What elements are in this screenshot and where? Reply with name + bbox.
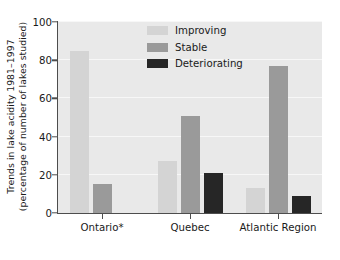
legend-swatch-improving-icon <box>147 26 168 35</box>
legend-item-deteriorating: Deteriorating <box>147 58 243 69</box>
y-axis-tick-label: 80 <box>39 55 52 66</box>
gridline <box>58 21 322 22</box>
x-axis-category-label: Quebec <box>170 222 209 233</box>
y-axis-tick-label: 100 <box>33 17 52 28</box>
y-axis-tick-label: 40 <box>39 131 52 142</box>
y-axis-line <box>57 21 58 214</box>
legend-item-stable: Stable <box>147 42 243 53</box>
y-axis-tick-mark <box>52 212 57 213</box>
y-axis-tick-label: 20 <box>39 169 52 180</box>
bar-quebec-stable <box>181 116 200 213</box>
bar-chart-figure: Trends in lake acidity 1981–1997 (percen… <box>0 0 340 260</box>
legend-swatch-stable-icon <box>147 43 168 52</box>
y-axis-tick-mark <box>52 21 57 22</box>
legend-label: Improving <box>175 25 226 36</box>
y-axis-tick-mark <box>52 174 57 175</box>
x-axis-category-label: Atlantic Region <box>240 222 317 233</box>
y-axis-label: Trends in lake acidity 1981–1997 (percen… <box>0 0 34 232</box>
y-axis-tick-mark <box>52 59 57 60</box>
x-axis-tick-mark <box>278 214 279 219</box>
chart-legend: ImprovingStableDeteriorating <box>147 25 243 69</box>
bar-atlanticregion-improving <box>246 188 265 213</box>
legend-label: Deteriorating <box>175 58 243 69</box>
y-axis-tick-mark <box>52 136 57 137</box>
y-axis-tick-mark <box>52 98 57 99</box>
y-axis-label-line2: (percentage of number of lakes studied) <box>17 21 29 211</box>
bar-ontario-improving <box>70 51 89 213</box>
bar-ontario-stable <box>93 184 112 213</box>
legend-swatch-deteriorating-icon <box>147 59 168 68</box>
bar-atlanticregion-stable <box>269 66 288 213</box>
x-axis-tick-mark <box>190 214 191 219</box>
y-axis-label-line1: Trends in lake acidity 1981–1997 <box>6 39 17 193</box>
bar-atlanticregion-deteriorating <box>292 196 311 213</box>
bar-quebec-improving <box>158 161 177 213</box>
x-axis-category-label: Ontario* <box>80 222 123 233</box>
legend-label: Stable <box>175 42 207 53</box>
y-axis-tick-label: 60 <box>39 93 52 104</box>
bar-quebec-deteriorating <box>204 173 223 213</box>
y-axis-tick-labels: 020406080100 <box>30 22 56 213</box>
x-axis-tick-mark <box>102 214 103 219</box>
legend-item-improving: Improving <box>147 25 243 36</box>
